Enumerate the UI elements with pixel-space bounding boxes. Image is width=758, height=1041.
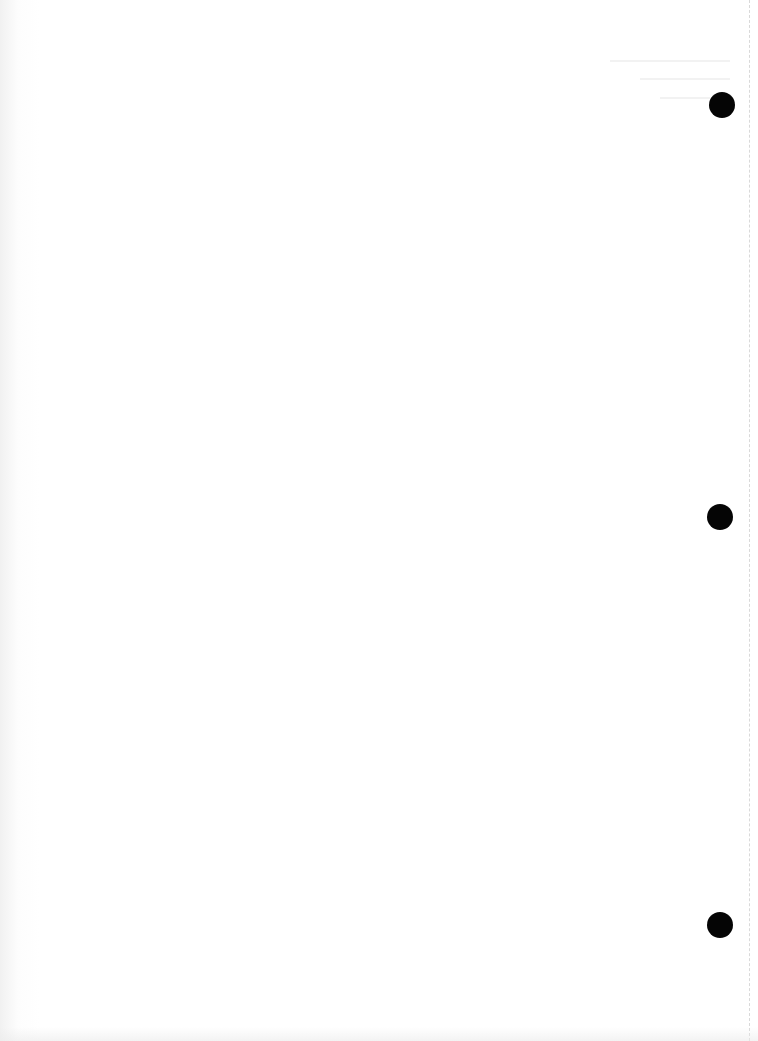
- bleed-through-mark: [610, 60, 730, 62]
- page-edge-line: [749, 0, 750, 1041]
- punch-hole-middle: [707, 504, 733, 530]
- scanned-page: [0, 0, 758, 1041]
- punch-hole-bottom: [707, 912, 733, 938]
- bleed-through-mark: [660, 97, 710, 99]
- punch-hole-top: [709, 92, 735, 118]
- scan-shadow: [0, 1027, 758, 1041]
- bleed-through-mark: [640, 78, 730, 80]
